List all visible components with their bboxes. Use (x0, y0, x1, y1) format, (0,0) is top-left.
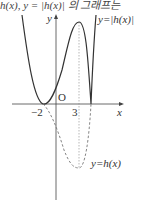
h-label: y=h(x) (91, 158, 121, 169)
tick-neg2: −2 (31, 107, 43, 118)
origin-label: O (58, 92, 66, 103)
tick-3: 3 (72, 107, 78, 118)
graph-canvas (0, 0, 151, 209)
graph-figure: h(x), y = |h(x)| 의 그래프는 y y=|h(x)| O −2 … (0, 0, 151, 209)
abs-h-label: y=|h(x)| (98, 14, 134, 25)
y-axis-arrow-icon (54, 14, 58, 19)
y-axis-label: y (47, 13, 52, 24)
x-axis-label: x (117, 107, 122, 118)
h-curve-dashed (43, 104, 91, 168)
